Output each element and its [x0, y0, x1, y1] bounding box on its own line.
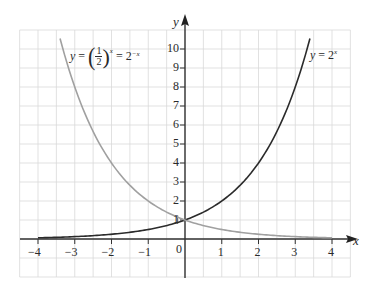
x-tick-label: 1 [218, 245, 224, 260]
y-tick-label: 10 [167, 41, 179, 56]
x-axis-label: x [353, 233, 359, 249]
left-paren-close: ) [102, 47, 109, 67]
y-tick-label: 2 [173, 193, 179, 208]
x-tick-label: 4 [328, 245, 334, 260]
right-label-exp: x [334, 48, 337, 56]
y-tick-label: 8 [173, 79, 179, 94]
left-label-exp: x [110, 47, 113, 55]
right-curve-label: y = 2x [310, 48, 337, 63]
y-tick-label: 1 [173, 212, 179, 227]
exponential-chart [0, 0, 378, 292]
left-curve-label: y = ( 1 2 ) x = 2 −x [70, 46, 140, 67]
left-label-eq2: = 2 [116, 49, 132, 64]
right-label-eq: = 2 [318, 48, 334, 62]
left-label-y: y [70, 49, 75, 64]
x-tick-label: 0 [176, 242, 182, 257]
left-label-eq: = [78, 49, 85, 64]
y-tick-label: 7 [173, 98, 179, 113]
left-fraction: 1 2 [95, 46, 102, 67]
x-tick-label: −2 [102, 245, 115, 260]
x-tick-label: −1 [138, 245, 151, 260]
left-label-exp2: −x [132, 50, 140, 58]
x-tick-label: −4 [28, 245, 41, 260]
x-tick-label: 2 [255, 245, 261, 260]
y-axis-label: y [173, 14, 179, 30]
y-tick-label: 9 [173, 60, 179, 75]
x-tick-label: −3 [65, 245, 78, 260]
fraction-denominator: 2 [96, 57, 101, 67]
y-tick-label: 5 [173, 136, 179, 151]
left-paren-open: ( [88, 46, 95, 68]
right-label-y: y [310, 48, 315, 62]
x-tick-label: 3 [291, 245, 297, 260]
y-tick-label: 6 [173, 117, 179, 132]
y-tick-label: 4 [173, 155, 179, 170]
y-tick-label: 3 [173, 174, 179, 189]
